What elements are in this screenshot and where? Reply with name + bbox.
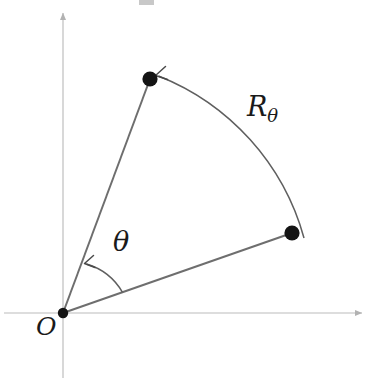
rotation-operator-subscript: θ [267, 105, 278, 126]
angle-theta-label: θ [113, 228, 129, 255]
ray-to-image-point [63, 79, 150, 313]
angle-arc [87, 264, 123, 292]
image-point [142, 71, 157, 86]
origin-point [58, 308, 68, 318]
source-point [284, 225, 299, 240]
axes-group [4, 13, 362, 378]
rotation-arc [159, 76, 305, 238]
rotation-arc-group [156, 67, 305, 239]
origin-label: O [36, 314, 57, 339]
angle-arc-group [85, 256, 123, 293]
figure-canvas: O θ Rθ [0, 0, 376, 382]
ray-to-source-point [63, 233, 292, 313]
rotation-operator-label: Rθ [247, 93, 278, 125]
rotation-operator-base: R [247, 91, 267, 122]
